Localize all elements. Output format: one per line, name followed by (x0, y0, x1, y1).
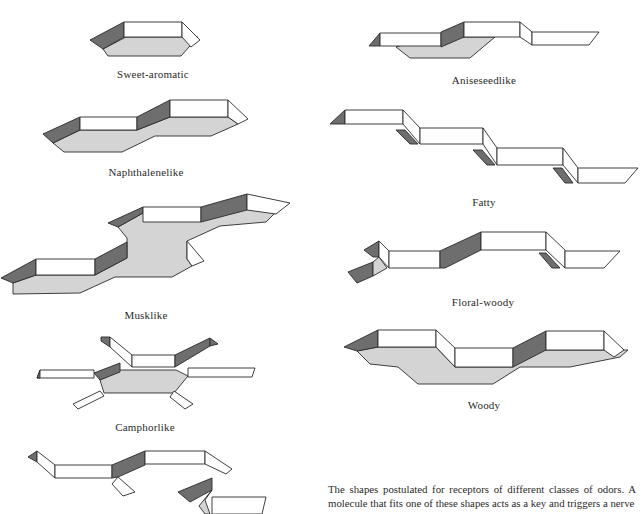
shape-floral-woody (348, 232, 620, 283)
figure-caption: The shapes postulated for receptors of d… (328, 482, 636, 510)
shape-unlabeled-bottom-left (28, 451, 266, 514)
label-naphthalenelike: Naphthalenelike (108, 166, 183, 178)
label-sweet-aromatic: Sweet-aromatic (117, 68, 189, 80)
shape-naphthalenelike (43, 100, 248, 152)
label-floral-woody: Floral-woody (452, 296, 514, 308)
label-aniseseedlike: Aniseseedlike (452, 74, 516, 86)
shape-woody (344, 330, 628, 384)
label-fatty: Fatty (472, 196, 496, 208)
label-camphorlike: Camphorlike (115, 421, 175, 433)
receptor-shapes-figure (0, 0, 641, 514)
shape-camphorlike (37, 337, 255, 409)
label-musklike: Musklike (124, 309, 167, 321)
shape-sweet-aromatic (90, 22, 200, 56)
shape-aniseseedlike (369, 22, 599, 58)
shape-fatty (330, 110, 638, 183)
label-woody: Woody (468, 399, 501, 411)
shape-musklike (1, 194, 290, 294)
